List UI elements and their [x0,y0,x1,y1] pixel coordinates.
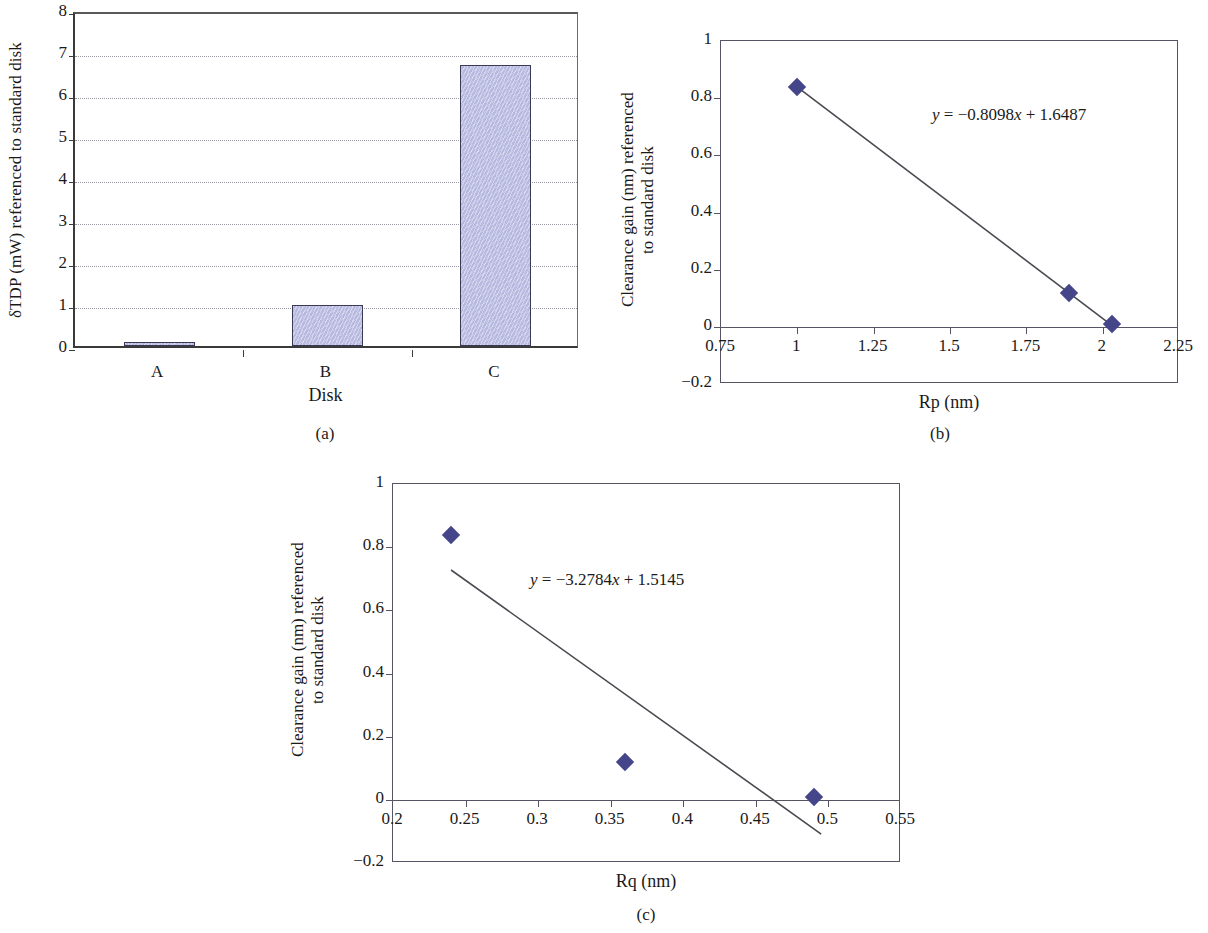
bar-label-B: B [286,362,366,382]
panel-a-y-tick-label: 8 [39,1,67,21]
y-tickmark [386,674,393,675]
panel-c-y-axis-title-line1: Clearance gain (nm) referenced [288,543,307,758]
panel-a-x-tickmark [412,350,413,357]
panel-a-y-tickmark [69,266,75,267]
panel-a-y-tick-label: 0 [39,337,67,357]
panel-a-y-tickmark [69,350,75,351]
x-tick-label: 0.45 [715,809,795,829]
x-tick-label: 1.75 [985,336,1065,356]
y-tickmark [714,213,721,214]
panel-a-y-tickmark [69,224,75,225]
panel-a-y-tick-label: 6 [39,85,67,105]
y-tickmark [386,610,393,611]
x-tick-label: 1 [756,336,836,356]
panel-b-y-axis-title-line1: Clearance gain (nm) referenced [618,93,637,308]
panel-b-eq-x: x [1014,105,1022,124]
y-tick-label: −0.2 [662,372,712,392]
panel-b-scatter-chart: Clearance gain (nm) referenced to standa… [600,0,1208,450]
x-tick-label: 0.4 [642,809,722,829]
panel-a-x-tickmark [243,350,244,357]
x-tick-label: 0.3 [497,809,577,829]
bar-B [292,305,363,346]
panel-a-gridline [75,56,577,57]
x-tick-label: 0.25 [425,809,505,829]
panel-c-eq-const: + 1.5145 [620,570,685,589]
y-tickmark [386,800,393,801]
panel-c-plot-area [392,483,900,862]
y-tick-label: 1 [662,29,712,49]
panel-c-scatter-chart: Clearance gain (nm) referenced to standa… [0,450,1208,933]
panel-a-y-tickmark [69,140,75,141]
bar-C [460,65,531,346]
panel-c-x-axis-title: Rq (nm) [392,871,900,892]
y-tick-label: −0.2 [334,851,384,871]
x-tick-label: 0.55 [860,809,940,829]
trend-line [721,41,1179,384]
y-tickmark [714,155,721,156]
panel-a-plot-area [73,12,578,348]
panel-c-eq-x: x [612,570,620,589]
y-tickmark [386,547,393,548]
panel-a-y-tick-label: 4 [39,169,67,189]
panel-a-y-tick-label: 2 [39,253,67,273]
panel-a-y-tick-label: 7 [39,43,67,63]
x-tick-label: 1.25 [833,336,913,356]
y-tick-label: 0.8 [334,535,384,555]
y-tick-label: 0.4 [334,662,384,682]
y-tick-label: 0.4 [662,201,712,221]
panel-a-y-tickmark [69,14,75,15]
panel-c-y-axis-title-line2: to standard disk [308,596,327,704]
panel-a-y-tick-label: 1 [39,295,67,315]
trend-line [393,484,901,863]
x-tick-label: 0.75 [680,336,760,356]
y-tick-label: 1 [334,472,384,492]
y-tick-label: 0.2 [334,725,384,745]
bar-label-A: A [117,362,197,382]
panel-a-y-tickmark [69,308,75,309]
panel-b-y-axis-title: Clearance gain (nm) referenced to standa… [618,55,662,345]
y-tickmark [386,737,393,738]
panel-b-eq-y: y [932,105,940,124]
panel-a-caption: (a) [295,424,355,444]
y-tickmark [714,98,721,99]
y-tick-label: 0.2 [662,258,712,278]
panel-c-y-axis-title: Clearance gain (nm) referenced to standa… [288,500,332,800]
panel-c-caption: (c) [616,905,676,925]
panel-a-bar-chart: δTDP (mW) referenced to standard disk Di… [0,0,600,450]
panel-b-caption: (b) [910,424,970,444]
panel-b-eq-const: + 1.6487 [1022,105,1087,124]
y-tickmark [714,327,721,328]
panel-a-y-tick-label: 3 [39,211,67,231]
panel-b-x-axis-title: Rp (nm) [720,392,1178,413]
panel-a-y-tickmark [69,98,75,99]
y-tick-label: 0.8 [662,86,712,106]
x-tick-label: 0.5 [787,809,867,829]
panel-b-eq-coef: = −0.8098 [940,105,1014,124]
x-tick-label: 0.35 [570,809,650,829]
y-tick-label: 0 [662,315,712,335]
y-tick-label: 0 [334,788,384,808]
y-tick-label: 0.6 [662,143,712,163]
bar-A [124,342,195,346]
panel-c-eq-coef: = −3.2784 [538,570,612,589]
x-tick-label: 1.5 [909,336,989,356]
y-tick-label: 0.6 [334,598,384,618]
panel-c-equation-annotation: y = −3.2784x + 1.5145 [530,570,684,590]
y-tickmark [714,270,721,271]
panel-b-plot-area [720,40,1178,383]
panel-a-x-axis-title: Disk [73,385,578,406]
x-tick-label: 2 [1062,336,1142,356]
bar-label-C: C [454,362,534,382]
x-tick-label: 0.2 [352,809,432,829]
panel-c-eq-y: y [530,570,538,589]
panel-a-y-tickmark [69,56,75,57]
panel-a-y-tick-label: 5 [39,127,67,147]
panel-a-y-axis-title: δTDP (mW) referenced to standard disk [6,12,26,348]
x-tick-label: 2.25 [1138,336,1208,356]
panel-b-y-axis-title-line2: to standard disk [638,146,657,254]
panel-b-equation-annotation: y = −0.8098x + 1.6487 [932,105,1086,125]
panel-a-y-tickmark [69,182,75,183]
